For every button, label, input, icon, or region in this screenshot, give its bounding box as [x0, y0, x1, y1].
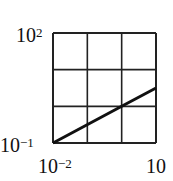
- x-tick-label-right: 10: [146, 156, 166, 176]
- y-tick-label-bottom: 10−1: [0, 135, 34, 155]
- x-tick-label-left: 10−2: [38, 156, 72, 176]
- y-tick-label-top: 102: [16, 25, 43, 45]
- data-line: [53, 88, 156, 143]
- grid-lines: [53, 33, 156, 143]
